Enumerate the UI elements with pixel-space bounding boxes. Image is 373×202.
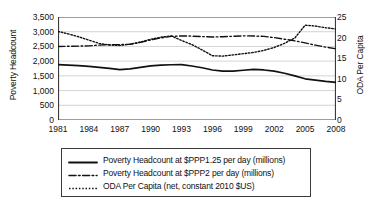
y-tick-left: 3,000 <box>16 28 54 36</box>
x-tick: 1996 <box>197 124 227 134</box>
y-tick-left: 1,000 <box>16 87 54 95</box>
legend-label: ODA Per Capita (net, constant 2010 $US) <box>103 181 254 191</box>
y-tick-right: 15 <box>337 54 357 62</box>
y-tick-right: 20 <box>337 34 357 42</box>
series-line-1 <box>58 65 336 83</box>
y-tick-left: 2,000 <box>16 57 54 65</box>
plot-svg <box>58 17 336 120</box>
legend-label: Poverty Headcount at $PPP1.25 per day (m… <box>103 155 285 165</box>
y-tick-right: 10 <box>337 75 357 83</box>
legend-item[interactable]: Poverty Headcount at $PPP2 per day (mill… <box>68 166 304 179</box>
y-tick-left: 1,500 <box>16 72 54 80</box>
y-tick-left: 0 <box>16 116 54 124</box>
chart-figure: Poverty Headcount ODA Per Capita 05001,0… <box>0 0 373 202</box>
legend-swatch-solid <box>68 154 98 165</box>
legend-swatch-dotted <box>68 180 98 191</box>
plot-area <box>58 17 336 120</box>
x-tick: 1993 <box>167 124 197 134</box>
x-tick: 2008 <box>321 124 351 134</box>
x-tick: 1990 <box>136 124 166 134</box>
legend-swatch-dashdot <box>68 167 98 178</box>
series-line-2 <box>58 36 336 49</box>
y-tick-right: 5 <box>337 95 357 103</box>
y-tick-left: 2,500 <box>16 42 54 50</box>
x-tick: 1984 <box>74 124 104 134</box>
x-tick: 1981 <box>43 124 73 134</box>
y-axis-right-ticks: 0510152025 <box>337 0 357 202</box>
x-tick: 1999 <box>228 124 258 134</box>
legend-item[interactable]: Poverty Headcount at $PPP1.25 per day (m… <box>68 153 304 166</box>
y-tick-left: 3,500 <box>16 13 54 21</box>
chart-legend: Poverty Headcount at $PPP1.25 per day (m… <box>61 148 311 197</box>
y-axis-left-ticks: 05001,0001,5002,0002,5003,0003,500 <box>16 0 54 202</box>
legend-item[interactable]: ODA Per Capita (net, constant 2010 $US) <box>68 179 304 192</box>
x-tick: 2002 <box>259 124 289 134</box>
y-tick-right: 0 <box>337 116 357 124</box>
legend-label: Poverty Headcount at $PPP2 per day (mill… <box>103 168 274 178</box>
y-tick-right: 25 <box>337 13 357 21</box>
x-tick: 2005 <box>290 124 320 134</box>
x-tick: 1987 <box>105 124 135 134</box>
y-tick-left: 500 <box>16 101 54 109</box>
